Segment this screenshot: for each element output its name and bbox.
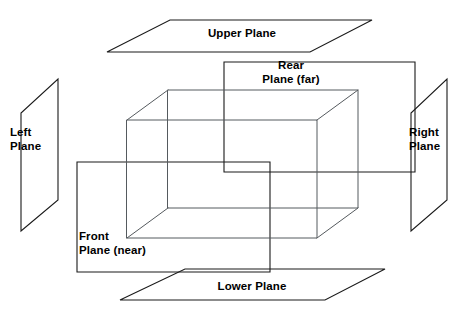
right-plane-label: Right Plane — [409, 126, 467, 153]
left-plane-shape — [21, 79, 58, 231]
frustum-diagram: Upper Plane Lower Plane Left Plane Right… — [0, 0, 476, 321]
left-plane-label: Left Plane — [10, 126, 64, 153]
right-plane-shape — [411, 79, 447, 231]
view-box-front-face — [127, 120, 317, 238]
front-plane-label: Front Plane (near) — [79, 230, 209, 257]
view-box-back-face — [168, 90, 358, 208]
diagram-canvas — [0, 0, 476, 321]
view-box-edge-bottom-right — [317, 208, 358, 238]
rear-plane-label: Rear Plane (far) — [232, 59, 350, 86]
view-box-edge-top-right — [317, 90, 358, 120]
view-box-edge-top-left — [127, 90, 168, 120]
upper-plane-label: Upper Plane — [182, 27, 302, 41]
lower-plane-label: Lower Plane — [192, 280, 312, 294]
